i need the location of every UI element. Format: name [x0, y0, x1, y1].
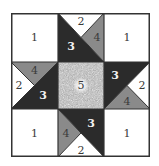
- piece-label: 1: [31, 127, 38, 140]
- star-point-bottom: 3 4 2: [58, 109, 104, 157]
- quilt-block-svg: 1 1 1 1 5: [11, 13, 150, 157]
- corner-square-top-left: 1: [11, 13, 58, 62]
- piece-label: 3: [67, 40, 75, 53]
- piece-label: 1: [124, 127, 131, 140]
- piece-label: 2: [78, 15, 85, 28]
- star-point-left: 4 2 3: [11, 62, 58, 109]
- piece-label: 2: [78, 144, 85, 157]
- piece-label: 4: [63, 127, 70, 140]
- piece-label: 2: [16, 79, 23, 92]
- piece-label: 4: [124, 95, 131, 108]
- piece-label: 2: [139, 79, 146, 92]
- corner-square-top-right: 1: [104, 13, 150, 62]
- center-square: 5: [58, 62, 104, 109]
- star-point-right: 3 2 4: [104, 62, 150, 109]
- corner-square-bottom-left: 1: [11, 109, 58, 157]
- star-point-top: 2 3 4: [58, 13, 104, 62]
- piece-label: 1: [31, 31, 38, 44]
- piece-label: 1: [124, 31, 131, 44]
- piece-label: 3: [111, 69, 119, 82]
- quilt-block-diagram: 1 1 1 1 5: [11, 13, 150, 157]
- piece-label: 3: [39, 89, 47, 102]
- corner-square-bottom-right: 1: [104, 109, 150, 157]
- piece-label: 4: [31, 64, 38, 77]
- piece-label: 4: [94, 31, 101, 44]
- piece-label: 5: [78, 79, 85, 92]
- piece-label: 3: [87, 117, 95, 130]
